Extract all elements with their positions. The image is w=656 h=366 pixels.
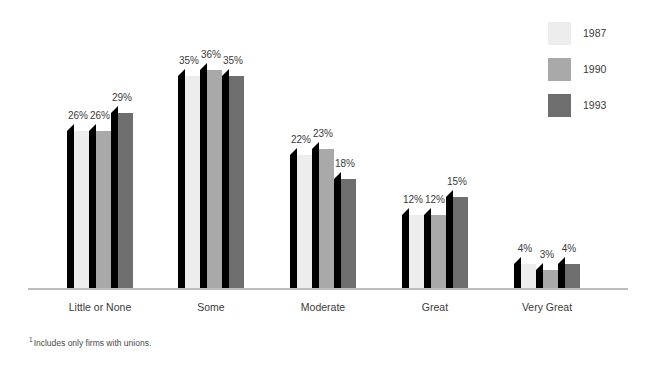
bar-front-face bbox=[297, 155, 312, 288]
bar-front-face bbox=[409, 215, 424, 288]
bar-side-panel bbox=[402, 215, 409, 288]
bar-front-face bbox=[207, 70, 222, 288]
bar bbox=[200, 70, 222, 288]
x-axis-tick-label: Very Great bbox=[477, 301, 617, 313]
bar-front-face bbox=[453, 197, 468, 288]
bar-value-label: 4% bbox=[549, 243, 589, 254]
bar-top-cap bbox=[536, 263, 543, 270]
bar-top-cap bbox=[424, 208, 431, 215]
legend-swatch bbox=[548, 58, 571, 81]
bar-value-label: 35% bbox=[213, 55, 253, 66]
bar bbox=[89, 131, 111, 288]
legend-label: 1987 bbox=[583, 27, 606, 39]
bar-front-face bbox=[96, 131, 111, 288]
bar-top-cap bbox=[514, 257, 521, 264]
bar bbox=[290, 155, 312, 288]
bar-group: 12%12%15% bbox=[402, 0, 468, 290]
bar-top-cap bbox=[290, 148, 297, 155]
bar-front-face bbox=[565, 264, 580, 288]
bar-value-label: 23% bbox=[303, 128, 343, 139]
bar bbox=[424, 215, 446, 288]
bar-front-face bbox=[118, 113, 133, 288]
legend-item: 1987 bbox=[548, 22, 648, 58]
bar bbox=[558, 264, 580, 288]
bar-group: 35%36%35% bbox=[178, 0, 244, 290]
bar-top-cap bbox=[67, 124, 74, 131]
chart-legend: 198719901993 bbox=[548, 22, 648, 130]
bar bbox=[334, 179, 356, 288]
legend-swatch bbox=[548, 94, 571, 117]
bar-side-panel bbox=[424, 215, 431, 288]
bar-side-panel bbox=[446, 197, 453, 288]
bar-top-cap bbox=[402, 208, 409, 215]
bar-side-panel bbox=[200, 70, 207, 288]
legend-item: 1993 bbox=[548, 94, 648, 130]
footnote-text: Includes only firms with unions. bbox=[34, 338, 152, 348]
legend-label: 1990 bbox=[583, 63, 606, 75]
bar bbox=[536, 270, 558, 288]
bar-side-panel bbox=[222, 76, 229, 288]
bar-group: 26%26%29% bbox=[67, 0, 133, 290]
bar-front-face bbox=[521, 264, 536, 288]
bar-front-face bbox=[341, 179, 356, 288]
bar-side-panel bbox=[111, 113, 118, 288]
bar-side-panel bbox=[334, 179, 341, 288]
bar-group: 22%23%18% bbox=[290, 0, 356, 290]
bar bbox=[178, 76, 200, 288]
bar-side-panel bbox=[89, 131, 96, 288]
bar-front-face bbox=[185, 76, 200, 288]
bar bbox=[446, 197, 468, 288]
chart-footnote: 1Includes only firms with unions. bbox=[29, 336, 151, 348]
bar-top-cap bbox=[222, 69, 229, 76]
bar bbox=[222, 76, 244, 288]
bar-front-face bbox=[319, 149, 334, 288]
bar-front-face bbox=[431, 215, 446, 288]
bar-chart: 26%26%29%35%36%35%22%23%18%12%12%15%4%3%… bbox=[0, 0, 656, 366]
bar-side-panel bbox=[514, 264, 521, 288]
bar-side-panel bbox=[558, 264, 565, 288]
bar-side-panel bbox=[312, 149, 319, 288]
bar bbox=[312, 149, 334, 288]
bar-value-label: 18% bbox=[325, 158, 365, 169]
bar bbox=[111, 113, 133, 288]
bar-top-cap bbox=[89, 124, 96, 131]
legend-item: 1990 bbox=[548, 58, 648, 94]
footnote-marker: 1 bbox=[29, 336, 33, 343]
bar-side-panel bbox=[536, 270, 543, 288]
bar-top-cap bbox=[334, 172, 341, 179]
bar-side-panel bbox=[67, 131, 74, 288]
bar bbox=[67, 131, 89, 288]
bar-front-face bbox=[74, 131, 89, 288]
bar-value-label: 29% bbox=[102, 92, 142, 103]
x-axis-line bbox=[28, 288, 628, 290]
bar-front-face bbox=[543, 270, 558, 288]
legend-label: 1993 bbox=[583, 99, 606, 111]
bar bbox=[402, 215, 424, 288]
bar-side-panel bbox=[290, 155, 297, 288]
legend-swatch bbox=[548, 22, 571, 45]
bar bbox=[514, 264, 536, 288]
bar-side-panel bbox=[178, 76, 185, 288]
bar-value-label: 15% bbox=[437, 176, 477, 187]
bar-front-face bbox=[229, 76, 244, 288]
bar-top-cap bbox=[178, 69, 185, 76]
